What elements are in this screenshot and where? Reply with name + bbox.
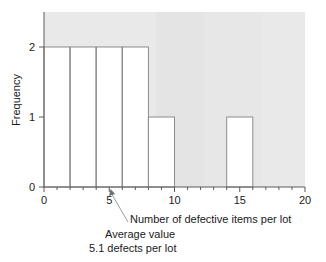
x-axis-tick-label: 0: [41, 194, 47, 206]
y-axis-tick-label: 2: [29, 41, 35, 53]
x-axis-tick-label: 20: [299, 194, 311, 206]
histogram-bar: [148, 117, 174, 187]
y-axis-tick-label: 0: [29, 181, 35, 193]
histogram-bar: [227, 117, 253, 187]
y-axis-tick-labels: 012: [29, 41, 35, 193]
histogram-bar: [44, 47, 70, 187]
average-value-label-line1: Average value: [105, 228, 175, 240]
histogram-bar: [70, 47, 96, 187]
y-axis-tick-label: 1: [29, 111, 35, 123]
x-axis-ticks: [44, 187, 305, 192]
average-value-label-line2: 5.1 defects per lot: [89, 242, 176, 254]
x-axis-tick-labels: 05101520: [41, 194, 311, 206]
chart-canvas: 05101520 012 Frequency Number of defecti…: [0, 0, 326, 262]
average-value-arrowhead: [109, 189, 115, 196]
histogram-bar: [122, 47, 148, 187]
x-axis-tick-label: 10: [168, 194, 180, 206]
average-value-leader-line: [111, 192, 128, 222]
x-axis-title: Number of defective items per lot: [130, 213, 291, 225]
x-axis-tick-label: 15: [234, 194, 246, 206]
histogram-figure: 05101520 012 Frequency Number of defecti…: [0, 0, 326, 262]
y-axis-ticks: [39, 47, 44, 187]
histogram-bar: [96, 47, 122, 187]
y-axis-title: Frequency: [10, 74, 22, 126]
